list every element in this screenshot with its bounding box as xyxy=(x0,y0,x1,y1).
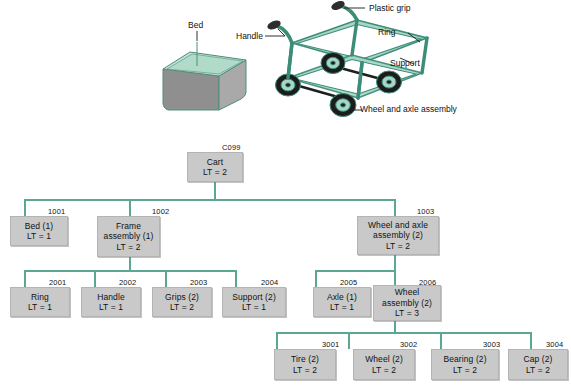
node-handle-line-2: LT = 1 xyxy=(99,302,123,313)
bom-diagram-root: Bed Handle Plastic grip Ring Support Whe… xyxy=(0,0,571,389)
node-wheel-assembly[interactable]: Wheel assembly (2) LT = 3 xyxy=(373,285,441,321)
connector-drop-tire xyxy=(276,332,278,349)
node-wheel-assembly-line-2: assembly (2) xyxy=(382,298,432,309)
connector-level2-left-bus xyxy=(24,270,236,272)
connector-drop-grips xyxy=(165,270,167,287)
illustration-label-ring: Ring xyxy=(378,27,395,37)
node-cap[interactable]: Cap (2) LT = 2 xyxy=(508,349,568,380)
node-wheel-axle-assembly[interactable]: Wheel and axle assembly (2) LT = 2 xyxy=(357,216,439,255)
node-bed[interactable]: Bed (1) LT = 1 xyxy=(10,216,68,246)
code-label-wheel: 3002 xyxy=(400,340,418,349)
wheel-front-right xyxy=(377,71,402,93)
illustration-label-wheel-axle-assembly: Wheel and axle assembly xyxy=(360,104,457,114)
node-wheel[interactable]: Wheel (2) LT = 2 xyxy=(353,349,415,380)
node-cart-line-2: LT = 2 xyxy=(203,167,227,178)
node-cart[interactable]: Cart LT = 2 xyxy=(187,152,243,182)
node-bearing-line-1: Bearing (2) xyxy=(443,354,486,365)
node-cap-line-2: LT = 2 xyxy=(526,365,550,376)
code-label-wheel-axle-assembly: 1003 xyxy=(417,207,435,216)
code-label-bed: 1001 xyxy=(48,207,66,216)
connector-level3-bus xyxy=(276,332,530,334)
illustration-label-bed: Bed xyxy=(188,20,203,30)
connector-drop-support xyxy=(235,270,237,287)
connector-drop-bearing xyxy=(440,332,442,349)
connector-frame-stem xyxy=(129,257,131,271)
code-label-cap: 3004 xyxy=(546,340,564,349)
node-cap-line-1: Cap (2) xyxy=(523,354,552,365)
node-tire-line-2: LT = 2 xyxy=(293,365,317,376)
node-axle[interactable]: Axle (1) LT = 1 xyxy=(313,287,371,317)
node-handle-line-1: Handle xyxy=(97,292,125,303)
node-ring-line-1: Ring xyxy=(31,292,49,303)
node-bearing[interactable]: Bearing (2) LT = 2 xyxy=(431,349,499,380)
node-grips-line-1: Grips (2) xyxy=(165,292,199,303)
code-label-support: 2004 xyxy=(261,278,279,287)
connector-level2-right-bus xyxy=(315,270,395,272)
connector-root-stem xyxy=(214,182,216,200)
wheel-back-right xyxy=(321,53,345,74)
code-label-bearing: 3003 xyxy=(483,340,501,349)
node-grips[interactable]: Grips (2) LT = 2 xyxy=(152,287,212,317)
node-bed-line-1: Bed (1) xyxy=(25,221,54,232)
node-frame-assembly[interactable]: Frame assembly (1) LT = 2 xyxy=(97,216,160,257)
connector-drop-wheel-axle xyxy=(394,199,396,216)
node-support[interactable]: Support (2) LT = 1 xyxy=(222,287,286,317)
connector-drop-wheel xyxy=(348,332,350,349)
node-tire-line-1: Tire (2) xyxy=(291,354,319,365)
cart-illustration xyxy=(0,0,571,140)
node-wheel-axle-line-1: Wheel and axle xyxy=(368,220,428,231)
illustration-label-plastic-grip: Plastic grip xyxy=(369,3,411,13)
connector-level1-bus xyxy=(24,199,395,201)
connector-drop-ring xyxy=(24,270,26,287)
node-bearing-line-2: LT = 2 xyxy=(453,365,477,376)
node-axle-line-2: LT = 1 xyxy=(330,302,354,313)
code-label-axle: 2005 xyxy=(340,278,358,287)
connector-drop-bed xyxy=(24,199,26,216)
node-support-line-1: Support (2) xyxy=(232,292,276,303)
code-label-grips: 2003 xyxy=(190,278,208,287)
code-label-frame-assembly: 1002 xyxy=(152,207,170,216)
node-axle-line-1: Axle (1) xyxy=(327,292,357,303)
node-wheel-assembly-line-1: Wheel xyxy=(395,287,420,298)
node-support-line-2: LT = 1 xyxy=(242,302,266,313)
node-ring[interactable]: Ring LT = 1 xyxy=(10,287,70,317)
node-frame-assembly-line-1: Frame xyxy=(116,221,141,232)
wheel-axle-label-line-1: Wheel and xyxy=(360,104,401,114)
illustration-label-support: Support xyxy=(390,58,420,68)
node-tire[interactable]: Tire (2) LT = 2 xyxy=(274,349,336,380)
node-wheel-assembly-line-3: LT = 3 xyxy=(395,308,419,319)
node-wheel-line-1: Wheel (2) xyxy=(365,354,403,365)
node-cart-line-1: Cart xyxy=(207,157,223,168)
code-label-cart: C099 xyxy=(222,143,241,152)
code-label-tire: 3001 xyxy=(322,340,340,349)
node-frame-assembly-line-3: LT = 2 xyxy=(116,242,140,253)
node-wheel-line-2: LT = 2 xyxy=(372,365,396,376)
node-frame-assembly-line-2: assembly (1) xyxy=(104,231,154,242)
wheel-axle-label-line-2: axle assembly xyxy=(403,104,457,114)
wheel-front-left xyxy=(330,94,356,117)
illustration-label-handle: Handle xyxy=(236,31,263,41)
connector-drop-axle xyxy=(315,270,317,287)
connector-wheel-axle-stem xyxy=(394,255,396,271)
code-label-ring: 2001 xyxy=(49,278,67,287)
node-wheel-axle-line-3: LT = 2 xyxy=(386,241,410,252)
node-handle[interactable]: Handle LT = 1 xyxy=(81,287,141,317)
connector-drop-cap xyxy=(530,332,532,349)
connector-drop-handle xyxy=(94,270,96,287)
node-grips-line-2: LT = 2 xyxy=(170,302,194,313)
node-wheel-axle-line-2: assembly (2) xyxy=(373,230,423,241)
bed-drawing xyxy=(163,42,246,110)
connector-drop-frame xyxy=(129,199,131,216)
node-ring-line-2: LT = 1 xyxy=(28,302,52,313)
code-label-handle: 2002 xyxy=(119,278,137,287)
node-bed-line-2: LT = 1 xyxy=(27,231,51,242)
